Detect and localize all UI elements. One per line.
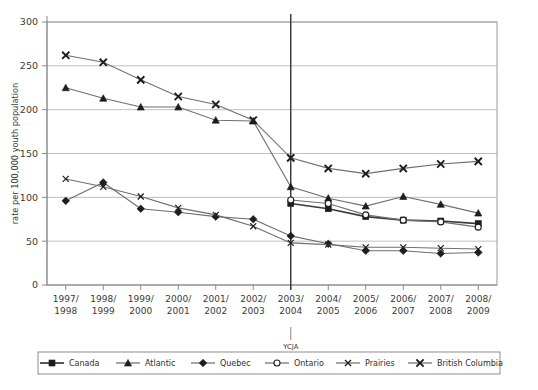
xtick-label: 2003: [242, 306, 265, 316]
xtick-label: 2007: [392, 306, 415, 316]
series-marker-quebec: [137, 205, 145, 213]
xtick-label: 2001: [167, 306, 190, 316]
line-chart: 050100150200250300rate per 100,000 youth…: [0, 0, 538, 390]
series-marker-ontario: [288, 197, 294, 203]
series-marker-quebec: [287, 232, 295, 240]
series-marker-ontario: [325, 200, 331, 206]
xtick-label: 2006: [354, 306, 377, 316]
xtick-label: 2002/: [240, 294, 267, 304]
ytick-label: 200: [20, 104, 38, 115]
legend-label-british-columbia: British Columbia: [437, 359, 503, 368]
series-line-atlantic: [66, 88, 479, 213]
y-axis-title: rate per 100,000 youth population: [10, 83, 20, 225]
xtick-label: 1999: [92, 306, 115, 316]
xtick-label: 2001/: [203, 294, 230, 304]
legend-marker-canada: [49, 360, 55, 366]
ytick-label: 150: [20, 148, 38, 159]
legend-label-atlantic: Atlantic: [145, 359, 175, 368]
xtick-label: 2006/: [390, 294, 417, 304]
xtick-label: 2005/: [353, 294, 380, 304]
xtick-label: 1998/: [90, 294, 117, 304]
xtick-label: 2004/: [315, 294, 342, 304]
ytick-label: 50: [26, 236, 38, 247]
series-line-ontario: [291, 200, 479, 227]
ytick-label: 100: [20, 192, 38, 203]
legend-label-quebec: Quebec: [220, 359, 251, 368]
xtick-label: 2000/: [165, 294, 192, 304]
series-marker-quebec: [62, 197, 70, 205]
xtick-label: 1998: [54, 306, 77, 316]
xtick-label: 2008/: [465, 294, 492, 304]
ycja-label: YCJA: [282, 343, 298, 351]
series-line-british-columbia: [66, 55, 479, 173]
series-marker-atlantic: [400, 193, 407, 200]
series-marker-ontario: [400, 217, 406, 223]
legend-marker-ontario: [274, 360, 280, 366]
legend-label-ontario: Ontario: [294, 359, 324, 368]
xtick-label: 2008: [429, 306, 452, 316]
xtick-label: 2003/: [278, 294, 305, 304]
series-line-prairies: [66, 179, 479, 249]
legend-label-canada: Canada: [69, 359, 100, 368]
chart-canvas: 050100150200250300rate per 100,000 youth…: [0, 0, 538, 390]
legend-label-prairies: Prairies: [365, 359, 395, 368]
series-marker-quebec: [99, 179, 107, 187]
xtick-label: 2000: [129, 306, 152, 316]
ytick-label: 250: [20, 60, 38, 71]
xtick-label: 2005: [317, 306, 340, 316]
series-marker-atlantic: [62, 84, 69, 91]
xtick-label: 2009: [467, 306, 490, 316]
ytick-label: 0: [32, 279, 38, 290]
series-marker-quebec: [174, 208, 182, 216]
xtick-label: 2007/: [428, 294, 455, 304]
xtick-label: 1999/: [128, 294, 155, 304]
series-marker-ontario: [363, 212, 369, 218]
xtick-label: 2004: [279, 306, 302, 316]
series-marker-atlantic: [287, 183, 294, 190]
series-marker-ontario: [438, 219, 444, 225]
xtick-label: 1997/: [53, 294, 80, 304]
ytick-label: 300: [20, 16, 38, 27]
series-marker-quebec: [249, 215, 257, 223]
xtick-label: 2002: [204, 306, 227, 316]
series-marker-ontario: [475, 224, 481, 230]
